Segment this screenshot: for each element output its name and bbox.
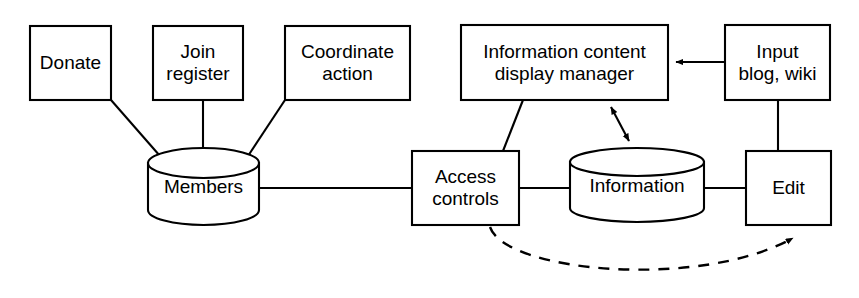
edge-manager-info [611,107,629,141]
edge-manager-access [503,100,523,151]
node-input-blog-wiki[interactable] [725,25,830,100]
node-information[interactable] [570,148,704,222]
node-access-controls[interactable] [412,151,519,225]
edge-donate-members [111,100,160,156]
diagram-canvas: Donate Join register Coordinate action I… [0,0,859,298]
node-join-register[interactable] [153,26,243,100]
edge-coord-members [248,100,285,156]
node-members[interactable] [148,148,259,225]
node-coordinate-action[interactable] [285,26,410,100]
node-donate[interactable] [30,26,111,100]
node-edit[interactable] [746,151,831,225]
edge-access-edit [490,227,793,270]
node-information-content-display-manager[interactable] [461,25,668,100]
diagram-vector-layer [0,0,859,298]
